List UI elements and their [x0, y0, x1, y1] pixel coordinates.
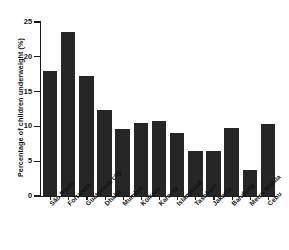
bar — [79, 76, 94, 196]
y-axis-tick-label: 15 — [0, 88, 32, 95]
bar — [61, 32, 76, 196]
y-axis-tick-label: 5 — [0, 157, 32, 164]
y-axis-tick — [34, 91, 41, 92]
plot-area — [41, 22, 277, 196]
y-axis-tick — [34, 56, 41, 57]
y-axis-title: Percentage of children underweight (%) — [16, 18, 25, 198]
y-axis-tick-label: 20 — [0, 53, 32, 60]
y-axis-tick-label: 25 — [0, 18, 32, 25]
bar — [43, 71, 58, 196]
bar — [152, 121, 167, 196]
y-axis-tick — [34, 195, 41, 196]
y-axis-tick-label: 10 — [0, 122, 32, 129]
bar — [115, 129, 130, 196]
y-axis-tick-label: 0 — [0, 192, 32, 199]
y-axis-tick — [34, 21, 41, 22]
bar — [134, 123, 149, 196]
y-axis-tick — [34, 126, 41, 127]
bar-chart: Percentage of children underweight (%) 0… — [0, 0, 289, 250]
y-axis-tick — [34, 161, 41, 162]
